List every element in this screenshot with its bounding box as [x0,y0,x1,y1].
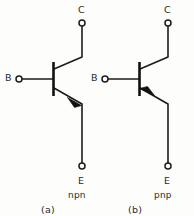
pnp-collector-lead [140,26,168,69]
pnp-base-terminal [102,76,108,82]
npn-collector-terminal [79,20,85,26]
npn-collector-lead [54,26,82,69]
npn-base-terminal [16,76,22,82]
npn-emitter-terminal [79,163,85,169]
npn-collector-label: C [78,5,85,15]
npn-caption: (a) [41,205,55,215]
pnp-emitter-arrowhead [140,87,155,96]
npn-emitter-lead [54,88,82,163]
pnp-emitter-label: E [164,176,170,186]
npn-type-label: npn [68,191,86,200]
npn-emitter-label: E [78,176,84,186]
pnp-caption: (b) [128,205,142,215]
npn-symbol [16,20,85,169]
pnp-symbol [102,20,171,169]
transistor-symbols-figure: C B E npn (a) C B E pnp (b) [0,0,194,216]
npn-base-label: B [5,73,12,83]
pnp-collector-terminal [165,20,171,26]
pnp-collector-label: C [164,5,171,15]
pnp-type-label: pnp [154,191,172,200]
pnp-emitter-terminal [165,163,171,169]
pnp-base-label: B [91,73,98,83]
pnp-emitter-lead [140,88,168,163]
